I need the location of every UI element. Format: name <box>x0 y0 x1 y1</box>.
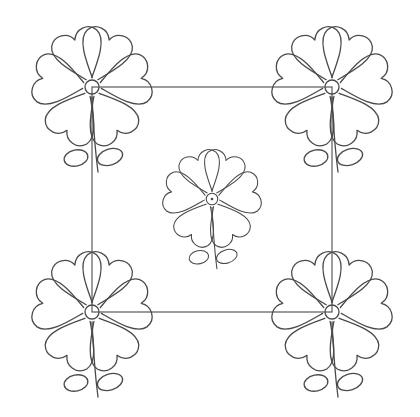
pattern-drawing <box>0 0 420 417</box>
flower-center <box>161 147 263 269</box>
quilt-pattern <box>0 0 420 417</box>
